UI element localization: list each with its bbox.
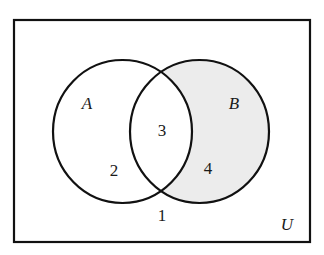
region-a-only-label: 2 xyxy=(110,161,119,180)
region-intersection-label: 3 xyxy=(158,121,167,140)
region-outside-label: 1 xyxy=(158,206,167,225)
set-b-label: B xyxy=(229,94,240,113)
universe-label: U xyxy=(281,215,295,234)
venn-diagram: A B 2 3 4 1 U xyxy=(0,0,324,255)
set-a-label: A xyxy=(81,94,93,113)
region-b-only-label: 4 xyxy=(204,159,213,178)
